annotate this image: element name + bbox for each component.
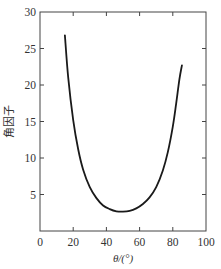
y-tick-label: 30 bbox=[25, 6, 37, 18]
x-axis-label: θ/(°) bbox=[113, 252, 134, 265]
x-tick-label: 20 bbox=[67, 236, 79, 248]
y-tick-label: 10 bbox=[25, 152, 37, 164]
y-tick-label: 20 bbox=[25, 79, 37, 91]
chart: 020406080100 51015202530 θ/(°) 角因子 bbox=[0, 0, 221, 269]
y-axis-ticks: 51015202530 bbox=[25, 6, 207, 201]
y-axis-label: 角因子 bbox=[3, 105, 15, 138]
y-tick-label: 25 bbox=[25, 43, 37, 55]
x-tick-label: 60 bbox=[134, 236, 146, 248]
data-line bbox=[65, 35, 182, 211]
x-tick-label: 40 bbox=[101, 236, 113, 248]
x-axis-ticks: 020406080100 bbox=[37, 12, 215, 248]
x-tick-label: 0 bbox=[37, 236, 43, 248]
x-tick-label: 100 bbox=[197, 236, 215, 248]
y-tick-label: 5 bbox=[30, 189, 36, 201]
x-tick-label: 80 bbox=[167, 236, 179, 248]
y-tick-label: 15 bbox=[25, 116, 37, 128]
